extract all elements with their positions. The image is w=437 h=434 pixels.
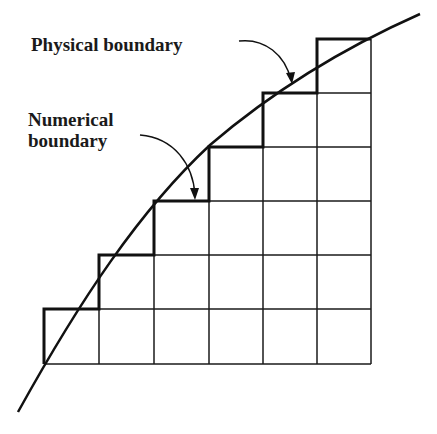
- numerical-boundary-arrow: [140, 135, 199, 200]
- numerical-boundary-label-line2: boundary: [28, 130, 108, 151]
- numerical-boundary-label-line1: Numerical: [28, 109, 113, 130]
- physical-boundary-curve: [18, 14, 420, 412]
- physical-boundary-label: Physical boundary: [31, 34, 183, 55]
- boundary-diagram: Physical boundary Numerical boundary: [0, 0, 437, 434]
- physical-boundary-arrow: [239, 41, 295, 84]
